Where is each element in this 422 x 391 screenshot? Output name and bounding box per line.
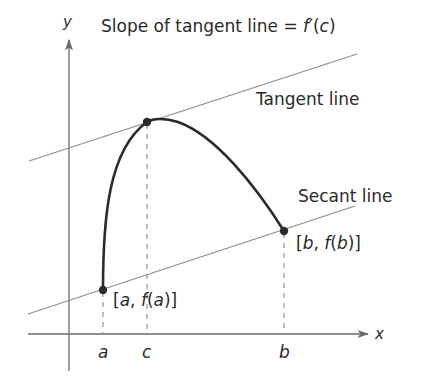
point-b <box>280 227 288 235</box>
secant-line <box>28 206 355 314</box>
tangent-line-label: Tangent line <box>255 89 360 109</box>
point-a-label: [a, f(a)] <box>113 290 177 310</box>
tick-label-a: a <box>98 342 108 362</box>
tick-label-c: c <box>142 342 152 362</box>
x-axis-label: x <box>374 325 384 343</box>
y-axis-label: y <box>62 13 73 31</box>
mean-value-theorem-diagram: y x a c b Slope of tangent line = f′(c) … <box>0 0 422 391</box>
secant-line-label: Secant line <box>298 186 393 206</box>
point-a <box>99 286 107 294</box>
function-curve <box>103 119 284 290</box>
tick-label-b: b <box>279 342 290 362</box>
point-b-label: [b, f(b)] <box>296 233 361 253</box>
slope-annotation: Slope of tangent line = f′(c) <box>101 16 336 36</box>
point-c <box>143 118 151 126</box>
